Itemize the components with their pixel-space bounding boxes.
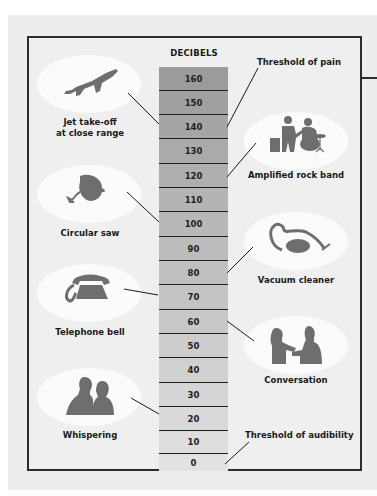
whispering-label: Whispering: [40, 430, 140, 441]
scale-segment-50: 50: [159, 334, 228, 358]
jet-label-line2: at close range: [40, 128, 140, 139]
circular-saw-icon: [62, 172, 112, 212]
scale-segment-40: 40: [159, 358, 228, 383]
frame-side-rule: [362, 77, 377, 79]
scale-segment-100: 100: [159, 212, 228, 237]
scale-segment-110: 110: [159, 188, 228, 212]
vacuum-cleaner-icon: [266, 220, 332, 256]
rock-band-label: Amplified rock band: [244, 170, 348, 181]
scale-segment-130: 130: [159, 139, 228, 164]
scale-segment-90: 90: [159, 237, 228, 261]
scale-segment-10: 10: [159, 431, 228, 454]
threshold-of-audibility-label: Threshold of audibility: [245, 430, 353, 440]
scale-segment-140: 140: [159, 115, 228, 139]
telephone-icon: [60, 271, 116, 307]
whispering-people-icon: [64, 375, 116, 417]
scale-segment-120: 120: [159, 164, 228, 188]
jet-icon: [62, 63, 122, 101]
scale-segment-60: 60: [159, 310, 228, 334]
conversation-label: Conversation: [244, 375, 348, 386]
scale-segment-70: 70: [159, 285, 228, 310]
scale-segment-80: 80: [159, 261, 228, 285]
decibels-title: DECIBELS: [159, 48, 229, 58]
scale-segment-30: 30: [159, 383, 228, 407]
threshold-of-pain-label: Threshold of pain: [257, 57, 341, 67]
telephone-label: Telephone bell: [40, 327, 140, 338]
decibel-scale-column: 160 150 140 130 120 110 100 90 80 70 60 …: [159, 67, 228, 471]
conversation-icon: [268, 326, 328, 366]
circular-saw-label: Circular saw: [40, 228, 140, 239]
jet-label-line1: Jet take-off: [40, 117, 140, 128]
scale-segment-160: 160: [159, 67, 228, 91]
scale-segment-20: 20: [159, 407, 228, 431]
scale-segment-0: 0: [159, 454, 228, 471]
vacuum-cleaner-label: Vacuum cleaner: [244, 275, 348, 286]
scale-segment-150: 150: [159, 91, 228, 115]
jet-label: Jet take-off at close range: [40, 117, 140, 139]
rock-band-icon: [268, 114, 328, 156]
